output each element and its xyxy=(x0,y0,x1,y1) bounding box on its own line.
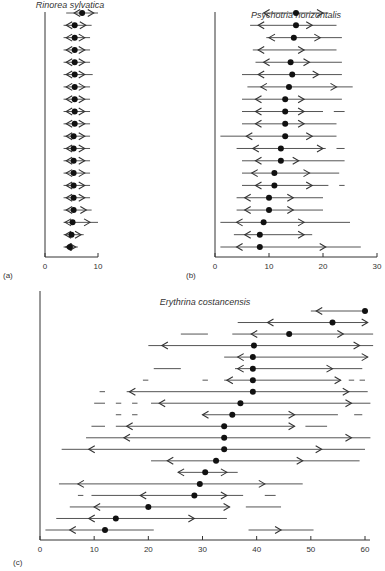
data-point xyxy=(289,72,295,78)
data-point xyxy=(250,389,256,395)
data-row xyxy=(64,46,91,53)
data-row xyxy=(64,22,92,29)
data-point xyxy=(72,22,78,28)
data-point xyxy=(266,207,272,213)
data-row xyxy=(242,71,342,78)
panel-b-chart: Psychotria horizontalis0102030(b) xyxy=(186,10,382,281)
data-row xyxy=(78,492,276,499)
data-point xyxy=(72,47,78,53)
panel-c-chart: Erythrina costancensis0102030405060(c) xyxy=(13,291,373,567)
data-point xyxy=(250,354,256,360)
panel-label: (c) xyxy=(13,558,23,567)
data-row xyxy=(64,194,91,201)
data-point xyxy=(113,515,119,521)
data-row xyxy=(94,400,370,407)
panel-a-chart: Rinorea sylvatica010(a) xyxy=(3,0,104,280)
data-point xyxy=(362,308,368,314)
data-point xyxy=(71,170,77,176)
data-point xyxy=(293,22,299,28)
data-row xyxy=(64,71,93,78)
data-point xyxy=(330,320,336,326)
x-tick-label: 10 xyxy=(90,545,99,554)
data-point xyxy=(250,377,256,383)
data-point xyxy=(67,244,73,250)
figure-canvas: Rinorea sylvatica010(a)Psychotria horizo… xyxy=(0,0,385,571)
x-tick-label: 10 xyxy=(265,262,274,271)
data-row xyxy=(234,231,312,238)
data-row xyxy=(56,515,227,522)
data-row xyxy=(266,34,342,41)
data-row xyxy=(242,108,345,115)
data-point xyxy=(69,232,75,238)
data-point xyxy=(266,195,272,201)
data-row xyxy=(247,83,352,90)
data-point xyxy=(221,423,227,429)
data-row xyxy=(64,157,91,164)
data-row xyxy=(242,157,345,164)
data-row xyxy=(220,219,350,226)
data-row xyxy=(64,120,91,127)
x-tick-label: 0 xyxy=(38,545,43,554)
data-point xyxy=(293,10,299,16)
panel-label: (b) xyxy=(186,271,196,280)
data-point xyxy=(286,331,292,337)
data-point xyxy=(282,121,288,127)
data-point xyxy=(72,35,78,41)
data-point xyxy=(271,170,277,176)
x-tick-label: 40 xyxy=(252,545,261,554)
data-row xyxy=(66,10,98,17)
x-tick-label: 20 xyxy=(144,545,153,554)
data-row xyxy=(250,22,336,29)
data-point xyxy=(71,207,77,213)
data-row xyxy=(64,34,91,41)
data-point xyxy=(221,446,227,452)
data-row xyxy=(64,108,91,115)
data-point xyxy=(278,158,284,164)
data-row xyxy=(64,170,91,177)
panel-label: (a) xyxy=(3,271,13,280)
data-row xyxy=(242,120,337,127)
data-row xyxy=(64,182,91,189)
data-point xyxy=(71,158,77,164)
data-row xyxy=(64,219,98,226)
x-tick-label: 0 xyxy=(213,262,218,271)
data-point xyxy=(251,343,257,349)
data-point xyxy=(237,400,243,406)
data-point xyxy=(72,109,78,115)
data-row xyxy=(45,527,313,534)
data-point xyxy=(72,59,78,65)
data-row xyxy=(64,145,91,152)
data-row xyxy=(64,59,91,66)
data-point xyxy=(221,435,227,441)
data-point xyxy=(79,10,85,16)
data-row xyxy=(70,503,281,510)
data-row xyxy=(256,59,342,66)
data-row xyxy=(242,182,345,189)
data-point xyxy=(102,527,108,533)
data-row xyxy=(237,194,323,201)
data-point xyxy=(191,492,197,498)
data-row xyxy=(311,308,368,315)
data-row xyxy=(148,342,373,349)
data-point xyxy=(72,96,78,102)
data-point xyxy=(71,145,77,151)
data-row xyxy=(64,83,91,90)
data-row xyxy=(116,411,362,418)
data-row xyxy=(91,423,327,430)
data-point xyxy=(271,182,277,188)
data-row xyxy=(253,46,337,53)
data-row xyxy=(224,354,368,361)
data-point xyxy=(286,84,292,90)
data-row xyxy=(237,207,323,214)
data-point xyxy=(71,133,77,139)
data-row xyxy=(220,133,336,140)
data-row xyxy=(64,133,91,140)
data-point xyxy=(282,109,288,115)
data-row xyxy=(238,319,368,326)
data-row xyxy=(237,145,345,152)
x-tick-label: 0 xyxy=(43,262,48,271)
data-point xyxy=(71,195,77,201)
x-tick-label: 50 xyxy=(306,545,315,554)
data-row xyxy=(64,231,84,238)
data-row xyxy=(100,388,368,395)
